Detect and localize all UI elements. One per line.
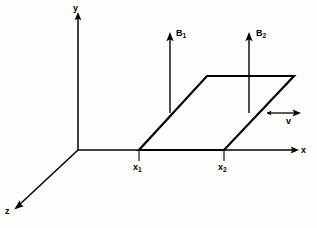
b2-vector-label: B2 — [256, 29, 266, 40]
b2-vector-label-subscript: 2 — [263, 32, 267, 39]
magnetic-field-vector-b2 — [245, 32, 252, 113]
magnetic-field-vector-b1 — [166, 32, 173, 113]
b1-vector-label-subscript: 1 — [183, 32, 187, 39]
z-axis — [14, 150, 78, 210]
x2-point-label: x2 — [218, 163, 227, 174]
b1-vector-label: B1 — [176, 29, 186, 40]
physics-diagram: y x z B1 B2 v x1 x2 — [0, 0, 317, 228]
z-axis-line — [18, 150, 78, 206]
velocity-vector — [267, 109, 301, 116]
velocity-vector-label: v — [286, 117, 291, 126]
diagram-canvas — [0, 0, 317, 228]
x1-point-label-subscript: 1 — [138, 166, 142, 173]
x1-point-label: x1 — [133, 163, 142, 174]
x-axis-label: x — [301, 146, 306, 155]
y-axis-label: y — [73, 4, 78, 13]
x2-point-label-subscript: 2 — [223, 166, 227, 173]
z-axis-label: z — [5, 207, 10, 216]
y-axis — [75, 12, 82, 150]
